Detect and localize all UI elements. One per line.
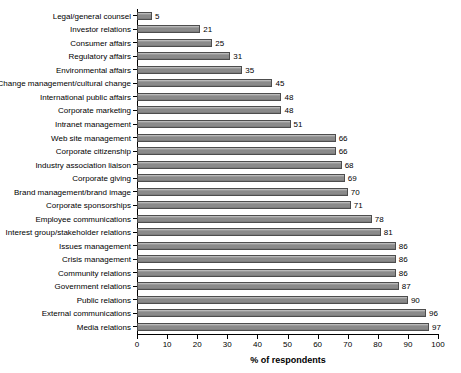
bar-row: Public relations90 bbox=[137, 293, 438, 307]
category-label: Regulatory affairs bbox=[68, 52, 131, 61]
bar-value-label: 48 bbox=[284, 92, 293, 101]
bar-value-label: 70 bbox=[351, 187, 360, 196]
bar-value-label: 87 bbox=[402, 282, 411, 291]
category-label: Interest group/stakeholder relations bbox=[6, 228, 131, 237]
x-axis-title: % of respondents bbox=[137, 355, 439, 365]
bar-row: Media relations97 bbox=[137, 320, 438, 334]
bar-row: Corporate giving69 bbox=[137, 171, 438, 185]
bar-value-label: 45 bbox=[275, 79, 284, 88]
x-axis-tick-label: 80 bbox=[373, 340, 382, 350]
category-label: Government relations bbox=[55, 282, 131, 291]
category-label: Public relations bbox=[77, 295, 131, 304]
bar bbox=[137, 25, 200, 33]
category-label: Corporate citizenship bbox=[56, 147, 131, 156]
bar-value-label: 69 bbox=[348, 174, 357, 183]
x-axis-tick bbox=[438, 335, 439, 339]
category-label: Corporate giving bbox=[72, 174, 131, 183]
category-label: Issues management bbox=[59, 241, 131, 250]
x-axis-tick-label: 10 bbox=[163, 340, 172, 350]
plot-area: Legal/general counsel5Investor relations… bbox=[137, 9, 438, 334]
bar-row: Industry association liaison68 bbox=[137, 158, 438, 172]
bar bbox=[137, 39, 212, 47]
x-axis-tick-label: 50 bbox=[283, 340, 292, 350]
x-axis-tick-label: 20 bbox=[193, 340, 202, 350]
bar-row: Community relations86 bbox=[137, 266, 438, 280]
bar-rows: Legal/general counsel5Investor relations… bbox=[137, 9, 438, 334]
bar bbox=[137, 134, 336, 142]
bar-row: Web site management66 bbox=[137, 131, 438, 145]
bar-row: International public affairs48 bbox=[137, 90, 438, 104]
category-label: Environmental affairs bbox=[56, 65, 131, 74]
bar bbox=[137, 66, 242, 74]
category-label: Media relations bbox=[77, 322, 131, 331]
bar-value-label: 35 bbox=[245, 65, 254, 74]
x-axis-tick-label: 30 bbox=[223, 340, 232, 350]
bar bbox=[137, 309, 426, 317]
category-label: External communications bbox=[42, 309, 131, 318]
category-label: Web site management bbox=[51, 133, 131, 142]
x-axis-tick bbox=[227, 335, 228, 339]
bar-value-label: 71 bbox=[354, 201, 363, 210]
bar-value-label: 66 bbox=[339, 147, 348, 156]
x-axis-tick bbox=[378, 335, 379, 339]
bar-value-label: 68 bbox=[345, 160, 354, 169]
bar-row: Corporate sponsorships71 bbox=[137, 198, 438, 212]
bar bbox=[137, 215, 372, 223]
bar-value-label: 31 bbox=[233, 52, 242, 61]
bar-chart: Legal/general counsel5Investor relations… bbox=[0, 0, 461, 373]
bar bbox=[137, 120, 291, 128]
bar bbox=[137, 188, 348, 196]
bar-row: Regulatory affairs31 bbox=[137, 50, 438, 64]
bar bbox=[137, 269, 396, 277]
x-axis-tick bbox=[137, 335, 138, 339]
bar-row: Employee communications78 bbox=[137, 212, 438, 226]
x-axis-tick-label: 0 bbox=[135, 340, 139, 350]
x-axis-tick-label: 90 bbox=[403, 340, 412, 350]
x-axis-tick-label: 100 bbox=[431, 340, 444, 350]
bar bbox=[137, 282, 399, 290]
bar-row: Government relations87 bbox=[137, 280, 438, 294]
bar-value-label: 48 bbox=[284, 106, 293, 115]
x-axis-tick bbox=[318, 335, 319, 339]
x-axis-tick bbox=[257, 335, 258, 339]
category-label: Legal/general counsel bbox=[53, 11, 131, 20]
bar-row: Legal/general counsel5 bbox=[137, 9, 438, 23]
category-label: Corporate marketing bbox=[58, 106, 131, 115]
bar-value-label: 66 bbox=[339, 133, 348, 142]
bar-value-label: 25 bbox=[215, 38, 224, 47]
bar-row: Corporate citizenship66 bbox=[137, 144, 438, 158]
bar-value-label: 97 bbox=[432, 322, 441, 331]
bar bbox=[137, 106, 281, 114]
bar bbox=[137, 242, 396, 250]
category-label: Investor relations bbox=[70, 25, 131, 34]
bar-value-label: 86 bbox=[399, 241, 408, 250]
bar-row: Intranet management51 bbox=[137, 117, 438, 131]
category-label: Consumer affairs bbox=[70, 38, 131, 47]
x-axis-tick-label: 70 bbox=[343, 340, 352, 350]
bar-value-label: 5 bbox=[155, 11, 159, 20]
bar-value-label: 86 bbox=[399, 268, 408, 277]
bar-value-label: 86 bbox=[399, 255, 408, 264]
x-axis-tick-label: 40 bbox=[253, 340, 262, 350]
category-label: Industry association liaison bbox=[35, 160, 131, 169]
bar-row: External communications96 bbox=[137, 307, 438, 321]
category-label: Brand management/brand image bbox=[14, 187, 131, 196]
category-label: Change management/cultural change bbox=[0, 79, 131, 88]
bar bbox=[137, 79, 272, 87]
bar bbox=[137, 93, 281, 101]
bar-value-label: 21 bbox=[203, 25, 212, 34]
bar bbox=[137, 228, 381, 236]
x-axis-tick bbox=[408, 335, 409, 339]
bar bbox=[137, 161, 342, 169]
bar bbox=[137, 296, 408, 304]
category-label: Community relations bbox=[58, 268, 131, 277]
category-label: Employee communications bbox=[35, 214, 131, 223]
bar-row: Environmental affairs35 bbox=[137, 63, 438, 77]
bar bbox=[137, 201, 351, 209]
bar-value-label: 51 bbox=[294, 120, 303, 129]
bar-row: Interest group/stakeholder relations81 bbox=[137, 226, 438, 240]
bar-value-label: 81 bbox=[384, 228, 393, 237]
bar-row: Brand management/brand image70 bbox=[137, 185, 438, 199]
bar-row: Investor relations21 bbox=[137, 23, 438, 37]
bar-row: Crisis management86 bbox=[137, 253, 438, 267]
